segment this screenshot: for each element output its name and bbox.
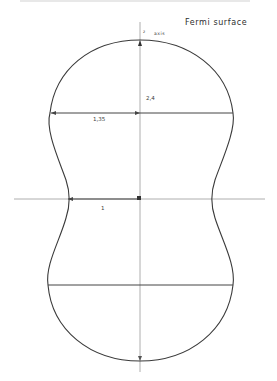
left-arrowhead-icon (51, 111, 56, 115)
neck-radius-label: 1 (101, 206, 105, 212)
half-width-dimension-label: 1,35 (93, 117, 105, 123)
center-arrowhead-icon (135, 111, 140, 115)
height-dimension-label: 2,4 (146, 96, 155, 102)
top-edge-artifact (20, 0, 250, 2)
center-marker-icon (137, 196, 141, 200)
z-axis-label: axis (154, 32, 165, 37)
z-axis-symbol: z (143, 30, 145, 34)
top-arrowhead-icon (138, 40, 142, 46)
fermi-surface-diagram: Fermi surface z axis 2,4 1,35 1 (0, 0, 277, 381)
diagram-title: Fermi surface (185, 19, 247, 27)
diagram-svg (0, 0, 277, 381)
bottom-marker-icon (138, 356, 142, 361)
fermi-surface-outline (48, 40, 234, 361)
